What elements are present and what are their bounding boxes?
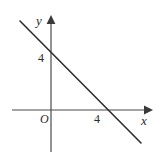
y-axis-tick-label-4: 4 bbox=[38, 52, 44, 64]
x-axis-tick-label-4: 4 bbox=[94, 113, 100, 125]
coordinate-plane-figure: y x O 4 4 bbox=[0, 0, 156, 158]
plotted-line bbox=[20, 21, 141, 143]
x-axis-label: x bbox=[141, 114, 147, 127]
x-axis bbox=[12, 106, 153, 115]
y-axis-label: y bbox=[36, 14, 42, 27]
y-axis-arrowhead-icon bbox=[47, 15, 56, 24]
origin-label: O bbox=[40, 113, 49, 125]
y-axis bbox=[47, 15, 56, 152]
graph-canvas bbox=[0, 0, 156, 158]
